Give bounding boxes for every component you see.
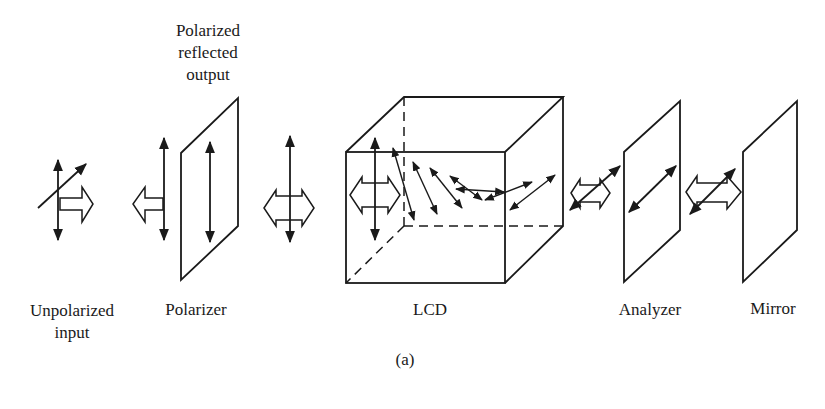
label-mirror: Mirror bbox=[728, 299, 818, 319]
twisted-polarization-arrows bbox=[393, 148, 555, 220]
reflected-output-arrow-icon bbox=[133, 138, 164, 240]
light-arrow-icon bbox=[686, 169, 741, 214]
polarizer-panel bbox=[181, 98, 238, 280]
lcd-polarization-diagram bbox=[0, 0, 825, 409]
label-line: reflected bbox=[158, 42, 258, 64]
figure-caption: (a) bbox=[380, 350, 430, 370]
light-arrow-icon bbox=[264, 136, 314, 242]
label-unpolarized-input: Unpolarized input bbox=[14, 300, 130, 344]
label-line: output bbox=[158, 64, 258, 86]
label-analyzer: Analyzer bbox=[600, 300, 700, 320]
mirror-panel bbox=[743, 101, 797, 282]
label-line: Unpolarized bbox=[14, 300, 130, 322]
label-polarizer: Polarizer bbox=[146, 300, 246, 320]
label-line: Polarized bbox=[158, 20, 258, 42]
light-arrow-icon bbox=[570, 166, 620, 210]
label-line: input bbox=[14, 322, 130, 344]
label-polarized-reflected-output: Polarized reflected output bbox=[158, 20, 258, 86]
lcd-cube bbox=[346, 97, 563, 283]
unpolarized-light-icon bbox=[38, 160, 93, 240]
analyzer-panel bbox=[624, 101, 680, 282]
label-lcd: LCD bbox=[400, 300, 460, 320]
